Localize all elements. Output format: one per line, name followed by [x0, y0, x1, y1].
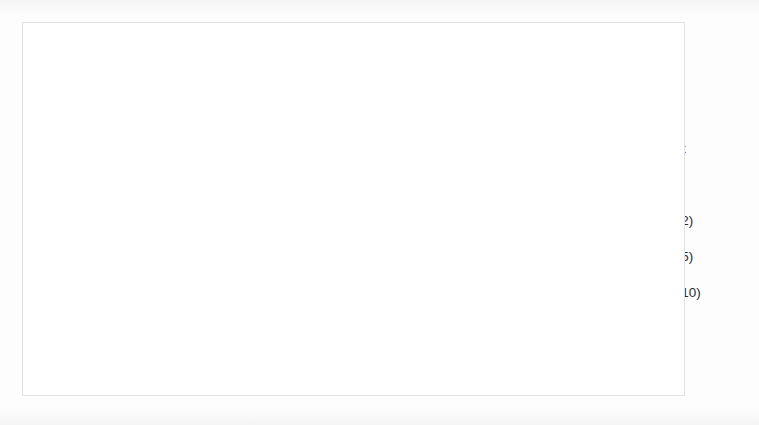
chart-root: 0200400600800100012001400160018000500010…	[0, 0, 759, 425]
chart-frame	[22, 22, 685, 396]
